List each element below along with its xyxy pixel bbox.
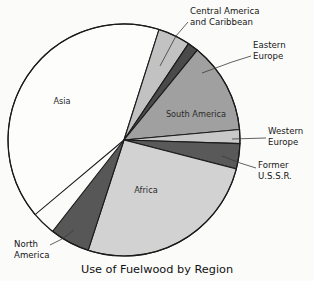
callout-line: and Caribbean <box>190 17 253 27</box>
pie-chart-figure: AsiaSouth AmericaAfrica Central Americaa… <box>0 0 314 281</box>
callout-line: Eastern <box>253 40 286 50</box>
callout-label-western-europe: WesternEurope <box>268 126 303 147</box>
callout-line: North <box>14 239 38 249</box>
chart-title: Use of Fuelwood by Region <box>81 263 233 276</box>
callout-label-central-america-and-caribbean: Central Americaand Caribbean <box>190 6 259 27</box>
callout-label-former-ussr: FormerU.S.S.R. <box>258 160 292 181</box>
callout-label-north-america: NorthAmerica <box>14 239 49 260</box>
slice-label-south-america: South America <box>166 109 226 119</box>
callout-line: Western <box>268 126 303 136</box>
callout-line: Former <box>258 160 289 170</box>
pie-chart-canvas: AsiaSouth AmericaAfrica Central Americaa… <box>0 0 314 281</box>
callout-line: Europe <box>253 51 283 61</box>
callout-line: Europe <box>268 137 298 147</box>
callout-label-eastern-europe: EasternEurope <box>253 40 286 61</box>
slice-label-africa: Africa <box>134 185 157 195</box>
callout-line: Central America <box>190 6 259 16</box>
callout-line: U.S.S.R. <box>258 171 292 181</box>
callout-line: America <box>14 250 49 260</box>
slice-label-asia: Asia <box>53 96 70 106</box>
pie-slices-group <box>8 24 240 256</box>
